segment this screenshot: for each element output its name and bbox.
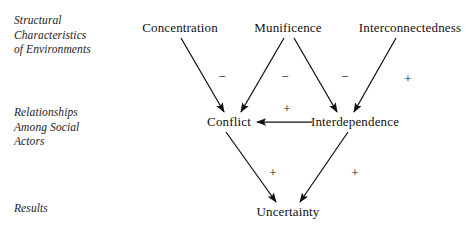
row-label-relationships-among-social-actors: Relationships Among Social Actors <box>14 105 79 149</box>
node-munificence: Munificence <box>254 20 321 36</box>
edge-sign-interdependence-to-uncertainty: + <box>351 166 358 179</box>
row-label-results: Results <box>14 201 48 216</box>
node-interdependence: Interdependence <box>311 114 399 130</box>
node-uncertainty: Uncertainty <box>256 204 319 220</box>
edge-sign-interdependence-to-conflict: + <box>283 102 290 115</box>
edge-interconnectedness-to-interdependence <box>354 38 396 112</box>
edge-munificence-to-interdependence <box>294 38 337 112</box>
edge-sign-munificence-to-interdependence: − <box>341 70 348 83</box>
edge-interdependence-to-uncertainty <box>300 132 348 202</box>
edge-sign-interconnectedness-to-interdependence: + <box>404 72 411 85</box>
edge-munificence-to-conflict <box>241 38 284 112</box>
edge-sign-conflict-to-uncertainty: + <box>269 166 276 179</box>
node-concentration: Concentration <box>142 20 218 36</box>
node-interconnectedness: Interconnectedness <box>359 20 461 36</box>
edge-sign-concentration-to-conflict: − <box>218 70 225 83</box>
node-conflict: Conflict <box>207 114 251 130</box>
edge-sign-munificence-to-conflict: − <box>281 70 288 83</box>
row-label-structural-characteristics: Structural Characteristics of Environmen… <box>14 13 91 57</box>
diagram-canvas: Structural Characteristics of Environmen… <box>0 0 472 231</box>
